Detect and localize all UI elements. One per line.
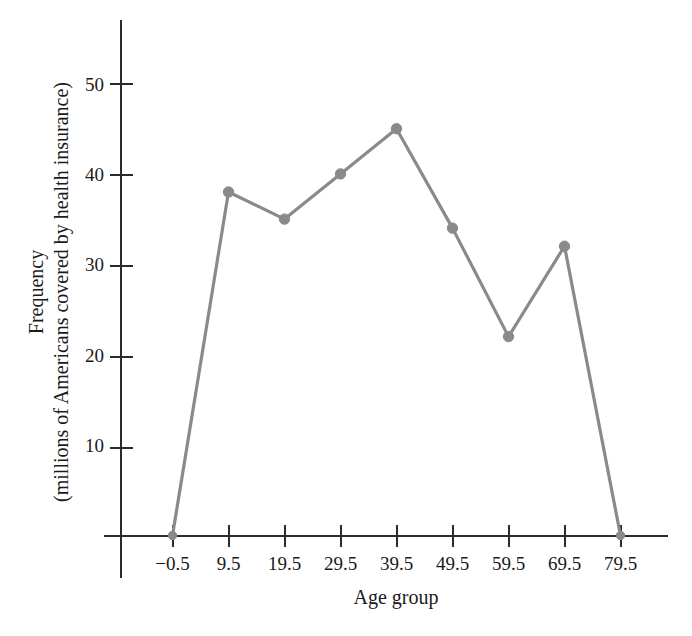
x-tick-label-49.5: 49.5 (436, 553, 469, 574)
data-point-9.5 (223, 187, 233, 197)
series-markers (168, 124, 624, 540)
x-tick-label-19.5: 19.5 (268, 553, 301, 574)
data-point-49.5 (447, 223, 457, 233)
x-tick-label-29.5: 29.5 (324, 553, 357, 574)
data-point-19.5 (279, 214, 289, 224)
data-point-79.5 (616, 531, 624, 539)
y-tick-label-30: 30 (85, 254, 104, 275)
x-tick-label--0.5: −0.5 (155, 553, 189, 574)
y-axis-title-inner: (millions of Americans covered by health… (50, 82, 73, 502)
data-point-29.5 (335, 169, 345, 179)
data-point--0.5 (168, 531, 176, 539)
x-tick-label-9.5: 9.5 (217, 553, 241, 574)
y-tick-label-50: 50 (85, 74, 104, 95)
data-point-69.5 (559, 241, 569, 251)
chart-figure: 1020304050 −0.59.519.529.539.549.559.569… (0, 0, 692, 636)
x-axis-title: Age group (354, 586, 439, 609)
frequency-polygon-chart: 1020304050 −0.59.519.529.539.549.559.569… (0, 0, 692, 636)
x-tick-label-59.5: 59.5 (492, 553, 525, 574)
y-tick-label-40: 40 (85, 164, 104, 185)
x-tick-label-39.5: 39.5 (380, 553, 413, 574)
data-point-59.5 (503, 331, 513, 341)
series-line-frequency (173, 129, 621, 536)
y-tick-label-10: 10 (85, 435, 104, 456)
y-axis-title-outer: Frequency (25, 250, 48, 334)
y-tick-label-20: 20 (85, 345, 104, 366)
x-tick-label-79.5: 79.5 (604, 553, 637, 574)
x-tick-labels: −0.59.519.529.539.549.559.569.579.5 (155, 553, 637, 574)
y-tick-labels: 1020304050 (85, 74, 104, 457)
x-tick-label-69.5: 69.5 (548, 553, 581, 574)
data-point-39.5 (391, 124, 401, 134)
